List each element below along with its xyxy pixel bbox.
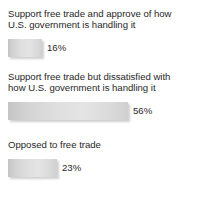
bar-fill — [8, 102, 128, 120]
bar-value-label: 23% — [62, 161, 81, 174]
bar-category-label: Opposed to free trade — [8, 139, 200, 150]
bar-chart: Support free trade and approve of how U.… — [0, 0, 203, 199]
bar-category-label: Support free trade and approve of how U.… — [8, 8, 200, 31]
bar-fill — [8, 159, 57, 177]
bar-category-label: Support free trade but dissatisfied with… — [8, 71, 200, 94]
bar-track — [8, 159, 57, 177]
bar-fill — [8, 39, 42, 57]
bar-track — [8, 102, 128, 120]
bar-value-label: 56% — [133, 104, 152, 117]
bar-value-label: 16% — [47, 41, 66, 54]
bar-track — [8, 39, 42, 57]
